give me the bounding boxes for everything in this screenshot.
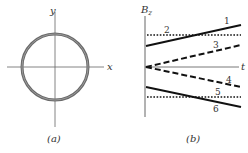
line-3-label: 3 (213, 40, 219, 50)
line-2-label: 2 (164, 25, 170, 35)
caption-a: (a) (47, 133, 61, 144)
panel-a: x y (a) (7, 5, 113, 144)
figure: x y (a) Bz t 1 2 3 4 5 6 (b) (0, 0, 248, 153)
x-axis-label: x (107, 61, 113, 72)
bz-axis-label: Bz (140, 4, 152, 17)
line-5-label: 5 (215, 87, 221, 97)
t-axis-label: t (241, 61, 246, 72)
line-1-label: 1 (224, 16, 230, 26)
line-3 (146, 45, 241, 67)
caption-b: (b) (186, 133, 200, 144)
y-axis-label: y (49, 5, 56, 16)
panel-b: Bz t 1 2 3 4 5 6 (b) (140, 4, 246, 144)
line-4-label: 4 (226, 75, 232, 85)
line-6-label: 6 (213, 104, 219, 114)
